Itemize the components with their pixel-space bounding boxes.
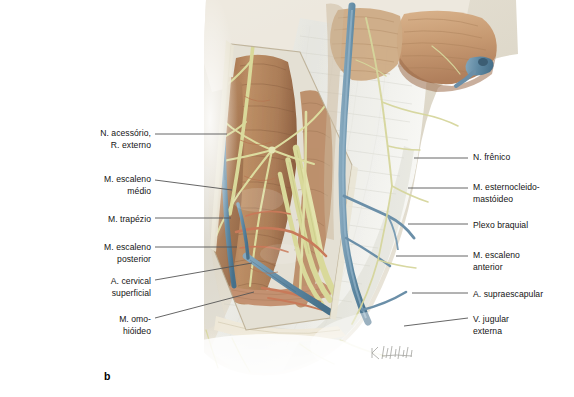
label-n-frenico: N. frênico	[473, 152, 510, 164]
label-m-escaleno-medio: M. escaleno médio	[104, 174, 151, 197]
panel-letter: b	[104, 370, 110, 382]
label-m-trapezio: M. trapézio	[108, 214, 151, 226]
label-a-cervical-superficial: A. cervical superficial	[111, 276, 151, 299]
label-plexo-braquial: Plexo braquial	[473, 220, 528, 232]
label-m-esternocleidomastoideo: M. esternocleido- mastóideo	[473, 182, 540, 205]
m-trapezio-belly	[397, 11, 497, 92]
label-a-supraescapular: A. supraescapular	[473, 289, 543, 301]
anatomical-figure-panel: N. acessório, R. externoM. escaleno médi…	[0, 0, 574, 397]
label-m-omo-hioideo: M. omo- hióideo	[119, 314, 151, 337]
label-v-jugular-externa: V. jugular externa	[473, 314, 509, 337]
label-n-acessorio-r-externo: N. acessório, R. externo	[100, 128, 151, 151]
label-m-escaleno-posterior: M. escaleno posterior	[104, 242, 151, 265]
label-m-escaleno-anterior: M. escaleno anterior	[473, 250, 520, 273]
